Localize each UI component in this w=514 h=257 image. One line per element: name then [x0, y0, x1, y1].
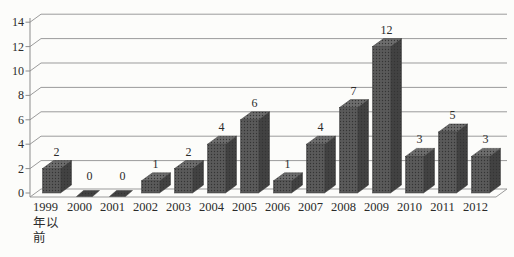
x-axis-label-2009: 2009 [364, 200, 389, 214]
x-axis-label-2008: 2008 [331, 200, 356, 214]
value-label-2002: 1 [153, 157, 159, 171]
x-axis-label-2007: 2007 [298, 200, 323, 214]
bar-2008 [340, 100, 369, 193]
x-axis-label-2002: 2002 [133, 200, 158, 214]
y-axis-label-14: 14 [12, 15, 24, 29]
bar-front-face [208, 144, 226, 193]
x-axis-label-2003: 2003 [166, 200, 191, 214]
bar-chart-canvas: 0246810121421999年以前020000200112002220034… [0, 0, 514, 257]
bar-side-face [391, 39, 402, 193]
bar-side-face [358, 100, 369, 193]
bar-2005 [241, 112, 270, 193]
bar-front-face [241, 120, 259, 193]
bar-2007 [307, 136, 336, 193]
bar-side-face [226, 136, 237, 193]
value-label-2009: 12 [381, 23, 393, 37]
x-axis-label-2006: 2006 [265, 200, 290, 214]
x-axis-label-2000: 2000 [67, 200, 92, 214]
value-label-2007: 4 [318, 120, 324, 134]
value-label-2001: 0 [120, 169, 126, 183]
bar-2010 [406, 148, 435, 193]
x-axis-label-1999年以前-line3: 前 [33, 230, 46, 245]
bar-2011 [439, 124, 468, 193]
bar-front-face [373, 47, 391, 193]
bar-side-face [457, 124, 468, 193]
bar-front-face [307, 144, 325, 193]
y-axis-label-0: 0 [18, 186, 24, 200]
bar-side-face [325, 136, 336, 193]
bar-front-face [406, 156, 424, 193]
value-label-2011: 5 [450, 108, 456, 122]
bar-front-face [340, 108, 358, 193]
x-axis-label-2004: 2004 [199, 200, 225, 214]
bar-front-face [43, 169, 61, 193]
value-label-2006: 1 [285, 157, 291, 171]
value-label-2003: 2 [186, 145, 192, 159]
value-label-2000: 0 [87, 169, 93, 183]
bar-2003 [175, 161, 204, 193]
value-label-2012: 3 [483, 132, 489, 146]
y-axis-label-4: 4 [18, 137, 24, 151]
bar-front-face [142, 181, 160, 193]
bar-side-face [259, 112, 270, 193]
value-label-2004: 4 [219, 120, 225, 134]
x-axis-label-2011: 2011 [430, 200, 455, 214]
bar-2009 [373, 39, 402, 193]
x-axis-label-1999年以前-line2: 年以 [33, 216, 59, 230]
bar-front-face [175, 169, 193, 193]
bar-front-face [472, 156, 490, 193]
value-label-2005: 6 [252, 96, 258, 110]
x-axis-label-2010: 2010 [397, 200, 422, 214]
x-axis-label-2012: 2012 [463, 200, 488, 214]
value-label-2010: 3 [417, 132, 423, 146]
y-axis-label-6: 6 [18, 113, 24, 127]
bar-2012 [472, 148, 501, 193]
x-axis-label-2001: 2001 [100, 200, 125, 214]
bar-front-face [274, 181, 292, 193]
value-label-2008: 7 [351, 84, 357, 98]
x-axis-label-2005: 2005 [232, 200, 257, 214]
bar-1999年以前 [43, 161, 72, 193]
y-axis-label-10: 10 [12, 64, 24, 78]
y-axis-label-2: 2 [18, 162, 24, 176]
x-axis-label-1999年以前-line1: 1999 [33, 200, 58, 214]
chart: 0246810121421999年以前020000200112002220034… [0, 0, 514, 257]
y-axis-label-12: 12 [12, 40, 24, 54]
y-axis-label-8: 8 [18, 88, 24, 102]
value-label-1999年以前: 2 [54, 145, 60, 159]
bar-front-face [439, 132, 457, 193]
bar-2004 [208, 136, 237, 193]
